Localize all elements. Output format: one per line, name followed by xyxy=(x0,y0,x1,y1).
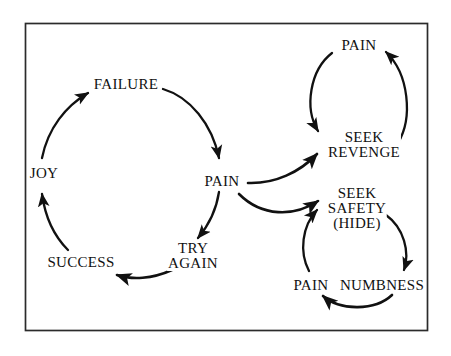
node-numbness: NUMBNESS xyxy=(339,278,425,293)
node-failure: FAILURE xyxy=(93,77,159,92)
node-seek-safety: SEEK SAFETY (HIDE) xyxy=(327,186,387,231)
edge-failure-to-pain xyxy=(163,89,219,158)
node-pain-center-label: PAIN xyxy=(205,174,240,189)
edge-pain-to-seek-revenge xyxy=(248,154,317,183)
node-seek-revenge: SEEK REVENGE xyxy=(327,130,401,160)
node-joy: JOY xyxy=(29,166,59,181)
node-joy-label: JOY xyxy=(30,166,58,181)
node-try-again: TRY AGAIN xyxy=(167,241,219,271)
node-try-again-line2: AGAIN xyxy=(168,256,218,271)
edge-try-again-to-success xyxy=(117,270,172,278)
node-failure-label: FAILURE xyxy=(94,77,158,92)
edge-seek-safety-to-numbness xyxy=(386,215,406,270)
node-pain-top-right-label: PAIN xyxy=(342,38,377,53)
node-seek-revenge-line2: REVENGE xyxy=(328,145,400,160)
edge-pain-to-seek-safety xyxy=(239,194,318,212)
edge-numbness-to-pain-bottom xyxy=(323,295,392,307)
node-pain-bottom-right-label: PAIN xyxy=(294,278,329,293)
node-try-again-line1: TRY xyxy=(168,241,218,256)
node-seek-revenge-line1: SEEK xyxy=(328,130,400,145)
edge-success-to-joy xyxy=(42,194,68,250)
node-seek-safety-line2: SAFETY xyxy=(328,201,386,216)
node-pain-center: PAIN xyxy=(204,174,241,189)
diagram-canvas: JOY FAILURE PAIN TRY AGAIN SUCCESS PAIN … xyxy=(0,0,451,356)
node-success: SUCCESS xyxy=(46,255,115,270)
node-seek-safety-line1: SEEK xyxy=(328,186,386,201)
node-success-label: SUCCESS xyxy=(47,255,114,270)
node-pain-bottom-right: PAIN xyxy=(293,278,330,293)
edge-pain-to-try-again xyxy=(198,192,219,238)
node-pain-top-right: PAIN xyxy=(341,38,378,53)
edge-pain-top-to-seek-revenge xyxy=(310,53,332,131)
node-numbness-label: NUMBNESS xyxy=(340,278,424,293)
edge-pain-bottom-to-seek-safety xyxy=(303,210,317,271)
edge-joy-to-failure xyxy=(42,93,88,158)
node-seek-safety-line3: (HIDE) xyxy=(328,216,386,231)
